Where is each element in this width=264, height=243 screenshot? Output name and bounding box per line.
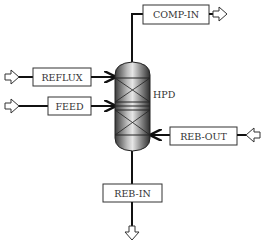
comp-in-label: COMP-IN (153, 9, 199, 20)
inlet-arrow-icon (246, 128, 260, 142)
reflux-label: REFLUX (41, 72, 82, 83)
comp-in-line (132, 14, 143, 64)
stream-comp-in: COMP-IN (132, 5, 227, 64)
reb-out-label: REB-OUT (180, 131, 227, 142)
stream-reb-out: REB-OUT (151, 127, 260, 145)
inlet-arrow-icon (5, 70, 19, 84)
feed-label: FEED (55, 101, 83, 112)
column-label: HPD (153, 89, 176, 100)
outlet-arrow-icon (213, 7, 227, 21)
process-diagram: COMP-IN REFLUX FEED REB-IN REB-OUT (0, 0, 264, 243)
reb-in-label: REB-IN (114, 188, 151, 199)
stream-reflux: REFLUX (5, 68, 115, 86)
inlet-arrow-icon (5, 99, 19, 113)
stream-reb-in: REB-IN (103, 148, 162, 240)
outlet-arrow-icon (125, 226, 139, 240)
stream-feed: FEED (5, 97, 115, 115)
column-hpd[interactable] (115, 62, 150, 151)
